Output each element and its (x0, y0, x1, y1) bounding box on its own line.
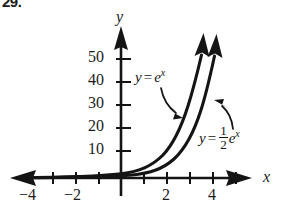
curve-label-half-exp-x-lhs: y (199, 130, 206, 146)
fraction-numerator: 1 (219, 124, 228, 137)
curve-label-exp-x-eq: = (142, 69, 154, 85)
x-tick-label-2: 2 (162, 186, 170, 204)
curve-label-half-exp-x-exponent: x (235, 128, 239, 139)
y-axis (114, 26, 131, 196)
y-axis-ticks (116, 59, 131, 151)
leader-arrow-exp-x (161, 88, 183, 120)
y-tick-label-40: 40 (88, 71, 104, 89)
curve-label-exp-x-exponent: x (161, 67, 165, 78)
y-axis-arrowhead (114, 26, 128, 50)
curve-label-exp-x-base: e (154, 69, 161, 85)
exponential-functions-figure: 29. (0, 0, 285, 220)
curve-label-half-fraction: 12 (219, 124, 228, 152)
x-axis-right-arrowhead (226, 170, 252, 186)
leader-arrow-exp-x-head (169, 110, 183, 120)
x-tick-label-minus2: −2 (64, 186, 81, 204)
x-tick-label-4: 4 (208, 186, 216, 204)
y-tick-label-50: 50 (88, 48, 104, 66)
x-tick-label-minus4: −4 (19, 186, 36, 204)
fraction-denominator: 2 (219, 137, 228, 151)
curve-label-exp-x-lhs: y (135, 69, 142, 85)
y-axis-label: y (116, 8, 123, 26)
y-tick-label-30: 30 (88, 94, 104, 112)
curve-label-half-exp-x-eq: = (206, 130, 218, 146)
graph-canvas (0, 0, 285, 220)
curve-exp-x-arrowhead (195, 33, 210, 57)
leader-arrow-half-exp-x-head (214, 99, 228, 108)
curve-exp-x (18, 33, 210, 178)
curve-label-exp-x: y=ex (135, 67, 165, 86)
y-tick-label-20: 20 (88, 117, 104, 135)
x-axis-label: x (263, 168, 270, 186)
y-tick-label-10: 10 (88, 140, 104, 158)
leader-arrow-exp-x-path (161, 88, 176, 113)
curve-half-exp-x-arrowhead (208, 34, 223, 58)
curve-label-half-exp-x: y=12ex (199, 124, 240, 152)
